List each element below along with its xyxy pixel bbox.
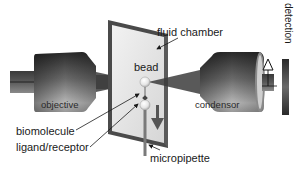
fluid-chamber-label: fluid chamber	[157, 27, 223, 38]
bead	[140, 77, 150, 87]
condensor-label: condensor	[195, 100, 239, 110]
detection-label: detection	[283, 3, 293, 44]
micropipette-label: micropipette	[150, 153, 210, 164]
detector-tube	[262, 74, 277, 91]
ligand-receptor-label: ligand/receptor	[16, 142, 89, 153]
biomolecule-label: biomolecule	[16, 126, 75, 137]
objective-label: objective	[41, 100, 79, 110]
pipette-bead	[140, 100, 150, 110]
micropipette	[144, 110, 147, 156]
bead-label: bead	[134, 62, 158, 73]
detection-bar	[282, 59, 289, 115]
optical-trap-diagram: fluid chamber bead objective condensor b…	[0, 0, 295, 171]
micropipette-pointer	[149, 145, 160, 150]
